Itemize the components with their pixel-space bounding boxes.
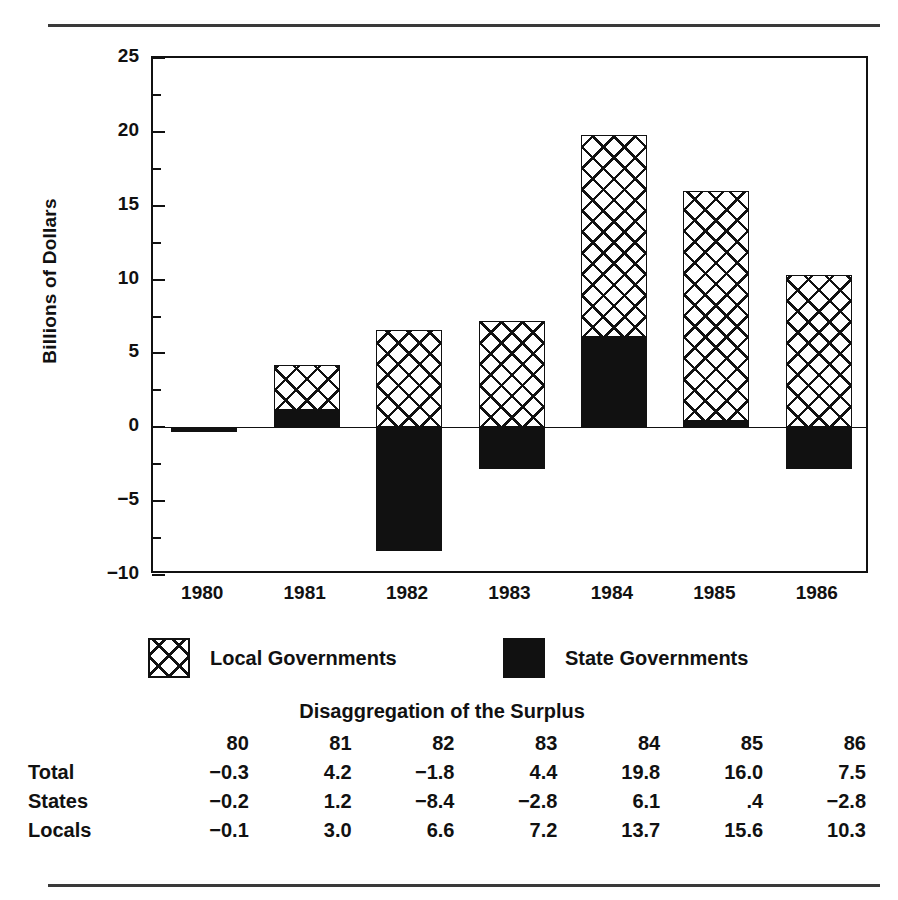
table-cell: 19.8 xyxy=(557,758,660,787)
y-axis-title: Billions of Dollars xyxy=(39,171,61,391)
table-row: Total−0.34.2−1.84.419.816.07.5 xyxy=(28,758,866,787)
bar-group-1981[interactable] xyxy=(274,58,340,571)
bar-segment-state-1985 xyxy=(683,421,749,427)
x-tick-label-1986: 1986 xyxy=(757,582,877,604)
solid-black-swatch-icon xyxy=(503,638,545,678)
table-cell: −1.8 xyxy=(352,758,455,787)
table-cell: −0.3 xyxy=(146,758,249,787)
y-tick-major xyxy=(152,279,165,281)
y-tick-label: 25 xyxy=(79,46,139,65)
table-cell: −0.2 xyxy=(146,787,249,816)
bar-segment-local-1984 xyxy=(581,135,647,337)
y-tick-label: 0 xyxy=(79,415,139,434)
y-tick-minor xyxy=(152,537,161,539)
bar-segment-state-1983 xyxy=(479,427,545,468)
table-cell: 6.1 xyxy=(557,787,660,816)
table-row-label-states: States xyxy=(28,787,146,816)
y-tick-label: 20 xyxy=(79,120,139,139)
table-column-header-82: 82 xyxy=(352,729,455,758)
legend-label: Local Governments xyxy=(210,647,397,670)
table-cell: −2.8 xyxy=(454,787,557,816)
y-tick-label: −5 xyxy=(79,489,139,508)
table-row-label-locals: Locals xyxy=(28,816,146,845)
bar-segment-local-1981 xyxy=(274,365,340,409)
table-title: Disaggregation of the Surplus xyxy=(0,700,898,723)
y-tick-major xyxy=(152,57,165,59)
bar-group-1983[interactable] xyxy=(479,58,545,571)
y-tick-major xyxy=(152,352,165,354)
table-header-row: 80818283848586 xyxy=(28,729,866,758)
bar-group-1982[interactable] xyxy=(376,58,442,571)
bar-group-1985[interactable] xyxy=(683,58,749,571)
table-cell: 3.0 xyxy=(249,816,352,845)
bar-segment-local-1986 xyxy=(786,275,852,427)
bar-segment-local-1980 xyxy=(171,430,237,432)
table-cell: −0.1 xyxy=(146,816,249,845)
y-tick-label: 15 xyxy=(79,194,139,213)
table-cell: 13.7 xyxy=(557,816,660,845)
bar-segment-local-1983 xyxy=(479,321,545,427)
table-row-label-total: Total xyxy=(28,758,146,787)
bar-segment-state-1986 xyxy=(786,427,852,468)
table-cell: 1.2 xyxy=(249,787,352,816)
y-tick-major xyxy=(152,574,165,576)
table-cell: .4 xyxy=(660,787,763,816)
bar-group-1980[interactable] xyxy=(171,58,237,571)
table-cell: −2.8 xyxy=(763,787,866,816)
bottom-horizontal-rule xyxy=(48,884,880,887)
plot-area xyxy=(151,56,868,573)
table-column-header-80: 80 xyxy=(146,729,249,758)
legend-item-local[interactable]: Local Governments xyxy=(148,638,397,678)
table-column-header-84: 84 xyxy=(557,729,660,758)
y-tick-minor xyxy=(152,463,161,465)
y-tick-label: 5 xyxy=(79,341,139,360)
table-cell: 4.2 xyxy=(249,758,352,787)
table-row: States−0.21.2−8.4−2.86.1.4−2.8 xyxy=(28,787,866,816)
table-cell: 6.6 xyxy=(352,816,455,845)
table-corner-cell xyxy=(28,729,146,758)
table-column-header-85: 85 xyxy=(660,729,763,758)
bar-group-1986[interactable] xyxy=(786,58,852,571)
table-cell: 10.3 xyxy=(763,816,866,845)
bar-segment-state-1984 xyxy=(581,337,647,427)
y-tick-minor xyxy=(152,242,161,244)
y-tick-major xyxy=(152,131,165,133)
table-cell: 16.0 xyxy=(660,758,763,787)
y-tick-minor xyxy=(152,168,161,170)
table-row: Locals−0.13.06.67.213.715.610.3 xyxy=(28,816,866,845)
table-cell: 4.4 xyxy=(454,758,557,787)
y-tick-label: 10 xyxy=(79,268,139,287)
table-cell: 7.2 xyxy=(454,816,557,845)
table-column-header-83: 83 xyxy=(454,729,557,758)
y-tick-minor xyxy=(152,94,161,96)
bar-segment-state-1982 xyxy=(376,427,442,551)
table-body: Total−0.34.2−1.84.419.816.07.5States−0.2… xyxy=(28,758,866,845)
legend-item-state[interactable]: State Governments xyxy=(503,638,748,678)
y-tick-minor xyxy=(152,389,161,391)
bar-segment-state-1981 xyxy=(274,410,340,428)
cross-hatch-swatch-icon xyxy=(148,638,190,678)
table-cell: 7.5 xyxy=(763,758,866,787)
bar-group-1984[interactable] xyxy=(581,58,647,571)
bar-segment-local-1982 xyxy=(376,330,442,427)
legend-label: State Governments xyxy=(565,647,748,670)
bar-segment-local-1985 xyxy=(683,191,749,421)
y-tick-minor xyxy=(152,316,161,318)
y-tick-major xyxy=(152,205,165,207)
y-tick-major xyxy=(152,426,165,428)
table-column-header-81: 81 xyxy=(249,729,352,758)
table-cell: −8.4 xyxy=(352,787,455,816)
table-cell: 15.6 xyxy=(660,816,763,845)
table-column-header-86: 86 xyxy=(763,729,866,758)
y-tick-label: −10 xyxy=(79,563,139,582)
surplus-table: 80818283848586 Total−0.34.2−1.84.419.816… xyxy=(28,729,866,845)
chart-legend: Local GovernmentsState Governments xyxy=(0,638,898,686)
surplus-table-block: Disaggregation of the Surplus 8081828384… xyxy=(0,700,898,845)
y-tick-major xyxy=(152,500,165,502)
